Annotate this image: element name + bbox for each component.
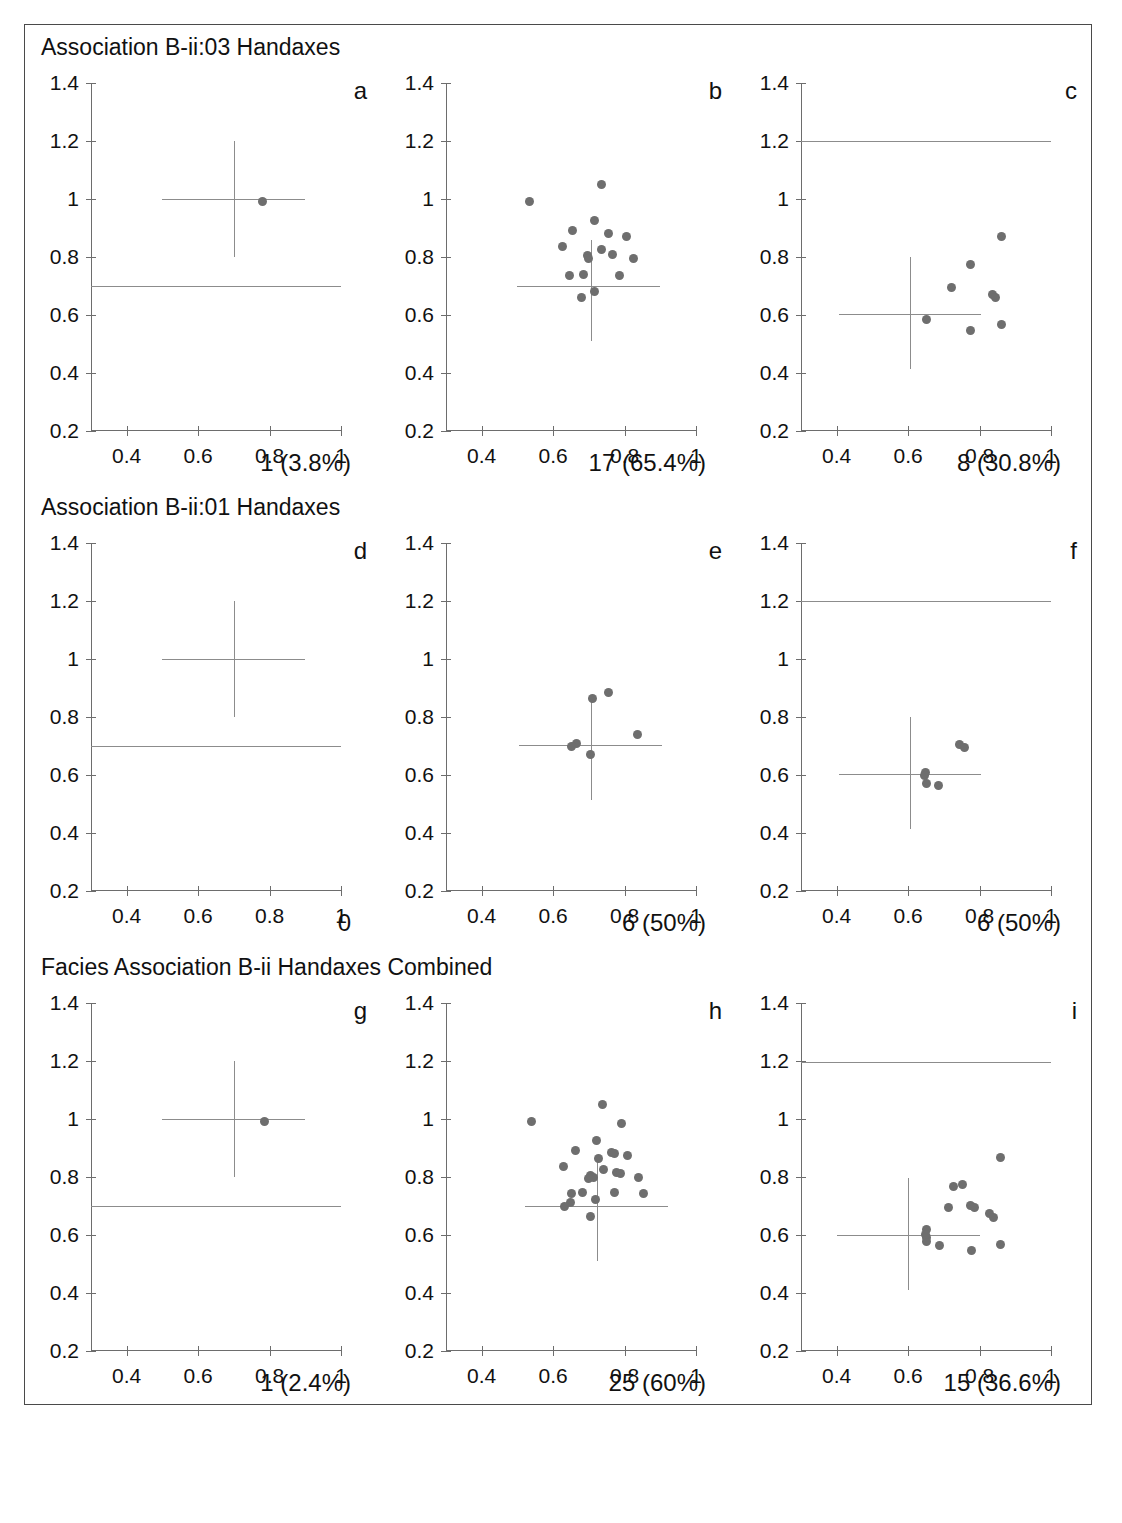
data-point	[527, 1117, 536, 1126]
x-axis-tick: 0.8	[625, 1346, 626, 1356]
panel-h: h 0.20.40.60.811.21.40.40.60.81 25 (60%)	[388, 993, 728, 1403]
y-axis-tick-label: 0.8	[760, 1165, 789, 1189]
x-axis-line	[801, 890, 1051, 891]
plot-area-a: 0.20.40.60.811.21.40.40.60.81	[91, 83, 341, 431]
y-axis-tick: 1.4	[796, 543, 806, 544]
data-point	[560, 1202, 569, 1211]
plot-area-h: 0.20.40.60.811.21.40.40.60.81	[446, 1003, 696, 1351]
y-axis-tick-label: 0.6	[50, 1223, 79, 1247]
data-point	[615, 271, 624, 280]
y-axis-tick: 0.4	[441, 1293, 451, 1294]
y-axis-tick-label: 0.2	[405, 879, 434, 903]
y-axis-tick: 0.2	[796, 1351, 806, 1352]
y-axis-tick: 0.2	[441, 1351, 451, 1352]
y-axis-tick-label: 1	[67, 1107, 79, 1131]
data-point	[604, 229, 613, 238]
y-axis-tick: 1	[796, 199, 806, 200]
data-point	[260, 1117, 269, 1126]
y-axis-tick: 0.4	[86, 373, 96, 374]
y-axis-tick: 1	[86, 659, 96, 660]
crosshair-vertical	[234, 601, 235, 717]
x-axis-tick: 0.6	[553, 426, 554, 436]
x-axis-tick: 0.4	[482, 1346, 483, 1356]
y-axis-tick: 0.8	[796, 1177, 806, 1178]
y-axis-tick: 1.2	[441, 601, 451, 602]
y-axis-tick: 0.6	[86, 1235, 96, 1236]
data-point	[590, 216, 599, 225]
y-axis-tick-label: 0.8	[760, 245, 789, 269]
data-point	[629, 254, 638, 263]
y-axis-tick: 0.8	[86, 257, 96, 258]
data-point	[604, 688, 613, 697]
data-point	[639, 1189, 648, 1198]
y-axis-tick-label: 1.4	[760, 531, 789, 555]
data-point	[616, 1169, 625, 1178]
data-point	[622, 232, 631, 241]
y-axis-tick: 0.4	[796, 833, 806, 834]
y-axis-tick: 1.2	[441, 141, 451, 142]
y-axis-tick: 1.4	[86, 543, 96, 544]
y-axis-tick: 0.4	[796, 1293, 806, 1294]
y-axis-tick-label: 1	[422, 1107, 434, 1131]
data-point	[960, 743, 969, 752]
figure-section-row-1: Association B-ii:03 Handaxes a 0.20.40.6…	[25, 25, 1091, 485]
y-axis-tick: 0.8	[796, 257, 806, 258]
x-axis-line	[91, 1350, 341, 1351]
y-axis-tick-label: 1.2	[760, 589, 789, 613]
y-axis-tick: 1.4	[796, 1003, 806, 1004]
y-axis-tick: 0.2	[86, 1351, 96, 1352]
data-point	[568, 226, 577, 235]
x-axis-tick: 0.4	[127, 886, 128, 896]
figure-frame: Association B-ii:03 Handaxes a 0.20.40.6…	[24, 24, 1092, 1405]
y-axis-tick-label: 1.4	[405, 71, 434, 95]
x-axis-tick: 0.6	[908, 1346, 909, 1356]
y-axis-tick-label: 0.2	[50, 419, 79, 443]
x-axis-tick: 0.6	[908, 886, 909, 896]
y-axis-tick: 1	[441, 199, 451, 200]
y-axis-tick-label: 1	[67, 187, 79, 211]
y-axis-tick: 1.4	[441, 1003, 451, 1004]
y-axis-tick: 1.4	[86, 83, 96, 84]
crosshair-vertical	[908, 1178, 909, 1290]
y-axis-tick-label: 1	[67, 647, 79, 671]
x-axis-tick: 0.8	[270, 1346, 271, 1356]
y-axis-tick: 0.6	[796, 1235, 806, 1236]
y-axis-tick: 0.2	[796, 891, 806, 892]
y-axis-tick-label: 1	[777, 647, 789, 671]
panel-e: e 0.20.40.60.811.21.40.40.60.81 6 (50%)	[388, 533, 728, 943]
panel-count-i: 15 (36.6%)	[743, 1369, 1079, 1397]
crosshair-vertical	[597, 1157, 598, 1261]
panel-letter-c: c	[1065, 77, 1077, 105]
data-point	[633, 730, 642, 739]
y-axis-tick: 0.2	[86, 891, 96, 892]
y-axis-tick: 0.8	[796, 717, 806, 718]
x-axis-tick: 0.4	[127, 426, 128, 436]
crosshair-vertical	[910, 257, 911, 369]
y-axis-tick-label: 1.4	[50, 991, 79, 1015]
crosshair-vertical	[910, 717, 911, 829]
y-axis-tick-label: 1	[777, 187, 789, 211]
plot-area-f: 0.20.40.60.811.21.40.40.60.81	[801, 543, 1051, 891]
panel-c: c 0.20.40.60.811.21.40.40.60.81 8 (30.8%…	[743, 73, 1083, 483]
y-axis-tick-label: 0.6	[405, 303, 434, 327]
x-axis-tick: 0.8	[980, 1346, 981, 1356]
y-axis-tick-label: 0.4	[50, 361, 79, 385]
y-axis-tick-label: 0.8	[405, 705, 434, 729]
crosshair-horizontal	[517, 286, 660, 287]
y-axis-tick: 1.2	[86, 141, 96, 142]
y-axis-tick-label: 0.8	[405, 245, 434, 269]
data-point	[591, 1195, 600, 1204]
y-axis-tick-label: 0.2	[50, 879, 79, 903]
reference-line	[801, 1062, 1051, 1063]
panel-a: a 0.20.40.60.811.21.40.40.60.81 1 (3.8%)	[33, 73, 373, 483]
y-axis-tick: 0.8	[441, 1177, 451, 1178]
y-axis-tick: 1.4	[796, 83, 806, 84]
x-axis-tick: 0.4	[482, 426, 483, 436]
section-title-row-3: Facies Association B-ii Handaxes Combine…	[41, 953, 492, 981]
y-axis-tick: 0.6	[441, 1235, 451, 1236]
x-axis-tick: 0.8	[270, 886, 271, 896]
x-axis-tick: 0.8	[625, 426, 626, 436]
reference-line	[91, 1206, 341, 1207]
y-axis-tick: 1	[86, 1119, 96, 1120]
x-axis-line	[446, 430, 696, 431]
